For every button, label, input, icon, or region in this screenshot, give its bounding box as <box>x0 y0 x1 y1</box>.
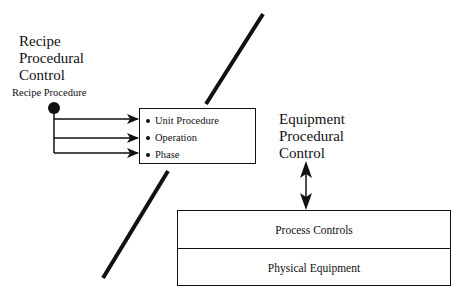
item-label: Unit Procedure <box>155 115 219 126</box>
list-item: Operation <box>146 129 255 146</box>
title-line: Equipment <box>279 111 345 128</box>
bullet-icon <box>146 136 150 140</box>
equipment-stack: Process Controls Physical Equipment <box>177 210 451 286</box>
physical-equipment-layer: Physical Equipment <box>178 249 450 286</box>
double-arrow-icon <box>300 161 312 210</box>
title-line: Recipe <box>19 33 84 50</box>
boundary-line-upper <box>206 14 263 104</box>
recipe-procedure-label: Recipe Procedure <box>12 87 86 99</box>
title-line: Procedural <box>19 50 84 67</box>
title-line: Procedural <box>279 128 345 145</box>
item-label: Phase <box>155 149 180 160</box>
recipe-procedural-control-title: Recipe Procedural Control <box>19 33 84 84</box>
list-item: Unit Procedure <box>146 112 255 129</box>
procedure-elements-box: Unit Procedure Operation Phase <box>139 108 256 164</box>
item-label: Operation <box>155 132 197 143</box>
boundary-line-lower <box>103 171 168 278</box>
list-item: Phase <box>146 146 255 163</box>
title-line: Control <box>279 145 345 162</box>
bullet-icon <box>146 119 150 123</box>
process-controls-layer: Process Controls <box>178 211 450 249</box>
title-line: Control <box>19 67 84 84</box>
bullet-icon <box>146 153 150 157</box>
equipment-procedural-control-title: Equipment Procedural Control <box>279 111 345 162</box>
